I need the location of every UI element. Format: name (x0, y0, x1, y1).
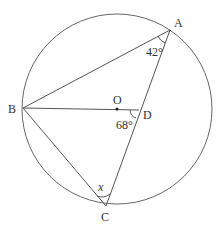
segment-ab (23, 30, 170, 108)
label-a: A (174, 16, 183, 30)
label-d: D (143, 108, 152, 122)
label-o: O (113, 93, 122, 107)
angle-label-c: x (97, 180, 104, 194)
angle-arc-c (97, 194, 110, 197)
angle-arc-d (130, 110, 136, 118)
angle-label-a: 42° (146, 45, 163, 59)
label-c: C (101, 210, 109, 224)
angle-arc-a (158, 36, 165, 43)
center-point-o (115, 107, 118, 110)
segment-bd (23, 108, 139, 110)
angle-label-d: 68° (116, 118, 133, 132)
label-b: B (8, 102, 16, 116)
geometry-diagram: A B C D O 42° 68° x (0, 0, 223, 227)
